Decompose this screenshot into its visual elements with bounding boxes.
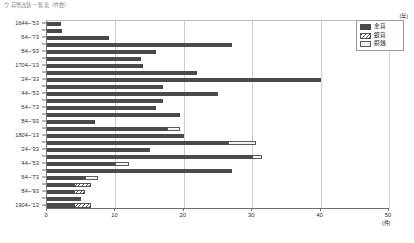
bar-segment-kin	[47, 190, 74, 194]
stacked-bar	[47, 92, 218, 96]
x-tick-mark	[183, 208, 184, 211]
stacked-bar	[47, 169, 232, 173]
y-tick-label: '24~'33	[20, 146, 39, 152]
y-tick-mark	[42, 204, 46, 205]
bar-row	[47, 183, 389, 187]
y-tick-label: '44~'53	[20, 90, 39, 96]
y-tick-mark	[42, 162, 46, 163]
x-tick-label: 10	[111, 212, 117, 218]
y-tick-mark	[42, 127, 46, 128]
legend-label: 銀貨	[374, 33, 386, 39]
bar-row	[47, 148, 389, 152]
y-tick-mark	[42, 155, 46, 156]
bar-row	[47, 36, 389, 40]
stacked-bar	[47, 176, 98, 180]
y-tick-mark	[42, 190, 46, 191]
stacked-bar	[47, 197, 81, 201]
bar-segment-kin	[47, 162, 115, 166]
stacked-bar	[47, 106, 156, 110]
bar-row	[47, 64, 389, 68]
bar-row	[47, 43, 389, 47]
y-tick-label: 1904~'13	[15, 202, 39, 208]
y-tick-label: '64~'73	[20, 34, 39, 40]
y-tick-mark	[42, 134, 46, 135]
bar-segment-kin	[47, 169, 232, 173]
bar-segment-kin	[47, 127, 167, 131]
bar-segment-kin	[47, 141, 228, 145]
stacked-bar	[47, 141, 256, 145]
bar-row	[47, 162, 389, 166]
legend: 金貨銀貨銅銭	[356, 20, 404, 51]
y-tick-mark	[42, 65, 46, 66]
bar-row	[47, 57, 389, 61]
stacked-bar	[47, 162, 129, 166]
y-tick-mark	[42, 107, 46, 108]
bar-row	[47, 113, 389, 117]
bar-segment-kin	[47, 71, 197, 75]
legend-swatch-sen	[360, 41, 371, 47]
bar-row	[47, 120, 389, 124]
bar-segment-sen	[115, 162, 129, 166]
y-tick-label: '84~'93	[20, 188, 39, 194]
x-tick-label: 50	[385, 212, 391, 218]
y-tick-mark	[42, 114, 46, 115]
bar-segment-kin	[47, 57, 141, 61]
bar-segment-sen	[228, 141, 255, 145]
y-tick-mark	[42, 37, 46, 38]
bar-segment-kin	[47, 92, 218, 96]
bar-segment-kin	[47, 43, 232, 47]
bar-segment-gin	[74, 183, 91, 187]
bar-row	[47, 155, 389, 159]
plot-area	[46, 20, 390, 209]
bar-segment-kin	[47, 64, 143, 68]
bar-segment-gin	[74, 190, 84, 194]
stacked-bar	[47, 113, 180, 117]
y-tick-label: 1804~'13	[15, 132, 39, 138]
y-tick-mark	[42, 120, 46, 121]
stacked-bar	[47, 99, 163, 103]
stacked-bar	[47, 127, 180, 131]
bar-row	[47, 169, 389, 173]
x-axis-unit-label: (件)	[382, 219, 391, 227]
bar-row	[47, 22, 389, 26]
bar-row	[47, 50, 389, 54]
bar-row	[47, 190, 389, 194]
bar-segment-kin	[47, 113, 180, 117]
y-tick-label: '24~'33	[20, 76, 39, 82]
x-tick-label: 40	[316, 212, 322, 218]
legend-label: 銅銭	[374, 41, 386, 47]
stacked-bar	[47, 85, 163, 89]
bar-segment-kin	[47, 36, 109, 40]
y-tick-label: '84~'93	[20, 48, 39, 54]
y-tick-mark	[42, 30, 46, 31]
stacked-bar	[47, 36, 109, 40]
bar-row	[47, 203, 389, 207]
y-tick-label: '84~'93	[20, 118, 39, 124]
bar-segment-kin	[47, 50, 156, 54]
bar-segment-kin	[47, 155, 252, 159]
bar-segment-kin	[47, 183, 74, 187]
x-tick-mark	[114, 208, 115, 211]
y-tick-label: 1704~'13	[15, 62, 39, 68]
stacked-bar	[47, 183, 91, 187]
y-tick-mark	[42, 197, 46, 198]
bar-segment-gin	[74, 203, 91, 207]
y-tick-mark	[42, 141, 46, 142]
bar-segment-kin	[47, 148, 150, 152]
y-tick-mark	[42, 58, 46, 59]
bar-segment-kin	[47, 134, 184, 138]
bar-segment-sen	[167, 127, 181, 131]
legend-label: 金貨	[374, 24, 386, 30]
y-tick-mark	[42, 72, 46, 73]
y-tick-mark	[42, 23, 46, 24]
y-tick-mark	[42, 79, 46, 80]
stacked-bar	[47, 71, 197, 75]
stacked-bar	[47, 29, 62, 33]
y-tick-mark	[42, 176, 46, 177]
bar-row	[47, 106, 389, 110]
x-tick-label: 0	[44, 212, 47, 218]
legend-item-kin: 金貨	[360, 24, 400, 30]
y-tick-mark	[42, 44, 46, 45]
bar-segment-kin	[47, 197, 81, 201]
y-tick-label: '64~'73	[20, 104, 39, 110]
